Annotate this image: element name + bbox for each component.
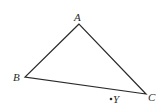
- vertex-label-a: A: [73, 11, 81, 23]
- point-y-dot: [110, 98, 113, 101]
- vertex-label-b: B: [13, 71, 20, 83]
- vertex-label-c: C: [148, 91, 156, 103]
- point-label-y: Y: [113, 93, 121, 105]
- triangle-diagram: A B C Y: [0, 0, 165, 112]
- triangle-abc: [25, 24, 146, 94]
